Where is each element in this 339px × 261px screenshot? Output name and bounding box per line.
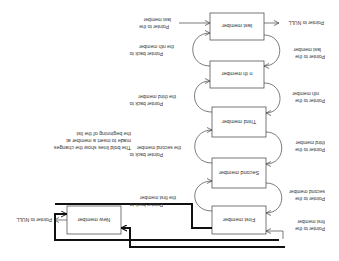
note-bold-lines: The bold lines show the changes made to … xyxy=(53,131,131,151)
node-label: last member xyxy=(222,23,252,29)
label-back-third: Pointer back to the third member xyxy=(129,94,176,107)
label-ptr-third: Pointer to the third member xyxy=(295,140,325,153)
node-second-member: Second member xyxy=(212,158,266,188)
label-new-null: Pointer to NULL xyxy=(16,217,52,223)
svg-text:Pointer to the: Pointer to the xyxy=(295,226,325,232)
label-pointer-to-last: Pointer to the last member xyxy=(139,17,171,30)
svg-text:made to insert a member at: made to insert a member at xyxy=(66,138,131,144)
svg-text:Pointer back to: Pointer back to xyxy=(129,51,163,57)
svg-text:the beginning of the list: the beginning of the list xyxy=(76,131,131,137)
svg-text:the first member: the first member xyxy=(140,195,176,201)
forward-arrow-first-to-second xyxy=(195,181,212,211)
label-ptr-last: Pointer to the last member xyxy=(293,47,325,60)
node-third-member: Third member xyxy=(212,107,266,137)
forward-arrow-nth-to-last xyxy=(193,33,210,66)
svg-text:nth member: nth member xyxy=(292,91,319,97)
label-ptr-second: Pointer to the second member xyxy=(289,189,325,202)
svg-text:The bold lines show the change: The bold lines show the changes xyxy=(53,145,131,151)
svg-text:Pointer to the: Pointer to the xyxy=(295,98,325,104)
svg-text:the second member: the second member xyxy=(136,145,181,151)
label-back-first: Pointer back to the first member xyxy=(129,195,176,208)
linked-list-diagram: New member First member Second member Th… xyxy=(0,0,339,261)
label-last-null: Pointer to NULL xyxy=(288,20,324,26)
forward-arrow-second-to-third xyxy=(195,130,212,163)
back-arrow-third-to-second xyxy=(266,132,282,164)
svg-text:second member: second member xyxy=(289,189,325,195)
label-ptr-nth: Pointer to the nth member xyxy=(292,91,325,104)
svg-text:the nth member: the nth member xyxy=(139,44,174,50)
node-label: Second member xyxy=(219,170,260,176)
svg-text:third member: third member xyxy=(295,140,325,146)
back-arrow-second-to-first xyxy=(266,183,282,213)
svg-text:the third member: the third member xyxy=(138,94,176,100)
svg-text:Pointer to the: Pointer to the xyxy=(139,24,169,30)
label-back-nth: Pointer back to the nth member xyxy=(129,44,174,57)
node-label: n th member xyxy=(221,71,252,77)
pointer-to-first-arrow xyxy=(266,231,283,239)
svg-text:Pointer back to: Pointer back to xyxy=(129,101,163,107)
svg-text:Pointer to the: Pointer to the xyxy=(295,54,325,60)
svg-text:Pointer back to: Pointer back to xyxy=(129,152,163,158)
node-first-member: First member xyxy=(212,206,266,234)
node-label: New member xyxy=(77,217,110,223)
svg-text:Pointer to the: Pointer to the xyxy=(295,147,325,153)
back-arrow-last-to-nth xyxy=(264,35,280,66)
diagram-canvas: New member First member Second member Th… xyxy=(0,0,339,261)
svg-text:Pointer to the: Pointer to the xyxy=(295,196,325,202)
forward-arrow-third-to-nth xyxy=(194,81,212,112)
node-label: Third member xyxy=(222,119,256,125)
svg-text:last member: last member xyxy=(293,47,321,53)
node-last-member: last member xyxy=(210,13,264,40)
svg-text:last member: last member xyxy=(143,17,171,23)
node-nth-member: n th member xyxy=(210,61,264,88)
label-back-second: Pointer back to the second member xyxy=(129,145,181,158)
node-new-member: New member xyxy=(67,206,121,234)
svg-text:Pointer back to: Pointer back to xyxy=(129,202,163,208)
svg-text:first member: first member xyxy=(297,219,325,225)
node-label: First member xyxy=(223,217,256,223)
label-ptr-first: Pointer to the first member xyxy=(295,219,325,232)
back-arrow-nth-to-third xyxy=(264,83,280,113)
